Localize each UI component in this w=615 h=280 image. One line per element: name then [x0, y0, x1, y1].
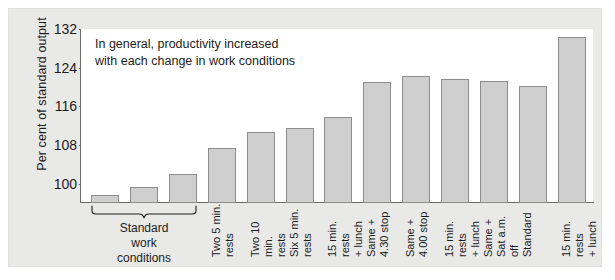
bar: [169, 174, 197, 203]
x-tick-label: Same + 4.30 stop: [365, 203, 391, 257]
bar: [91, 195, 119, 203]
y-axis-ticks: 100108116124132: [35, 9, 77, 268]
x-tick-label: 15 min. rests + lunch: [326, 203, 365, 257]
annotation-line-1: In general, productivity increased: [95, 36, 395, 53]
y-axis-line: [80, 29, 81, 203]
y-tick-label: 124: [43, 61, 77, 75]
chart-screenshot: Per cent of standard output 100108116124…: [0, 0, 615, 280]
y-tick-label: 116: [43, 99, 77, 113]
group-caption-line-3: conditions: [87, 251, 201, 266]
bar: [363, 82, 391, 203]
y-tick-label: 108: [43, 138, 77, 152]
figure-panel: Per cent of standard output 100108116124…: [8, 8, 602, 267]
bar: [480, 81, 508, 203]
brace-icon: [91, 205, 197, 219]
chart-annotation: In general, productivity increased with …: [95, 36, 395, 70]
group-caption-line-2: work: [87, 236, 201, 251]
x-tick-label: 15 min. rests + lunch: [443, 203, 482, 257]
x-tick-label: Six 5 min. rests: [288, 203, 314, 257]
bar: [441, 79, 469, 203]
group-caption: Standard work conditions: [87, 221, 201, 266]
bar: [519, 86, 547, 203]
x-tick-label: Standard: [521, 203, 534, 257]
annotation-line-2: with each change in work conditions: [95, 53, 395, 70]
x-tick-label: Same + 4.00 stop: [404, 203, 430, 257]
bar: [208, 148, 236, 203]
x-tick-label: Same + Sat a.m. off: [482, 203, 521, 257]
bar: [286, 128, 314, 203]
x-tick-label: Two 10 min. rests: [249, 203, 288, 257]
group-bracket: [91, 205, 197, 219]
x-tick-label: 15 min. rests + lunch: [560, 203, 599, 257]
y-tick-label: 132: [43, 22, 77, 36]
x-tick-label: Two 5 min. rests: [210, 203, 236, 257]
group-caption-line-1: Standard: [87, 221, 201, 236]
bar: [324, 117, 352, 203]
bar: [247, 132, 275, 203]
y-tick-label: 100: [43, 177, 77, 191]
bar: [402, 76, 430, 203]
bar: [130, 187, 158, 203]
bar: [558, 37, 586, 203]
